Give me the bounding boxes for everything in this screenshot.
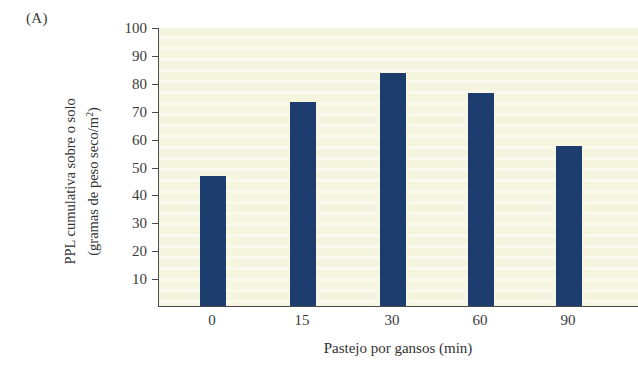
y-axis-tick-label-70: 70 [132,104,147,121]
bar-30 [380,73,406,306]
y-axis-tick-label-30: 30 [132,215,147,232]
y-axis-title-exponent: 2 [84,112,95,117]
y-axis-tick-90: 90 [152,56,159,57]
y-axis-tick-10: 10 [152,279,159,280]
y-axis-tick-50: 50 [152,168,159,169]
x-axis-tick-label-0: 0 [182,312,242,329]
y-axis-tick-20: 20 [152,251,159,252]
x-axis-title: Pastejo por gansos (min) [158,340,638,357]
x-axis-tick-label-60: 60 [450,312,510,329]
y-axis-tick-100: 100 [152,28,159,29]
y-axis-tick-label-10: 10 [132,271,147,288]
y-axis-title-line2-close: ) [85,107,101,112]
x-axis-tick-label-15: 15 [272,312,332,329]
y-axis-tick-label-50: 50 [132,160,147,177]
y-axis-tick-40: 40 [152,195,159,196]
plot-area: 102030405060708090100 [158,28,638,307]
bar-0 [200,176,226,306]
bar-60 [468,93,494,306]
y-axis-title-line2: (gramas de peso seco/m2) [80,36,104,326]
panel-label: (A) [26,10,48,27]
y-axis-title: PPL cumulativa sobre o solo (gramas de p… [61,36,104,326]
y-axis-tick-label-60: 60 [132,132,147,149]
x-axis-tick-label-30: 30 [362,312,422,329]
y-axis-tick-label-100: 100 [125,20,148,37]
y-axis-tick-70: 70 [152,112,159,113]
y-axis-tick-30: 30 [152,223,159,224]
y-axis-title-line2-text: (gramas de peso seco/m [85,117,101,256]
y-axis-tick-label-20: 20 [132,243,147,260]
x-axis-tick-label-90: 90 [538,312,598,329]
bar-15 [290,102,316,306]
y-axis-tick-label-40: 40 [132,187,147,204]
y-axis-title-line1: PPL cumulativa sobre o solo [62,98,78,264]
bar-90 [556,146,582,306]
y-axis-tick-80: 80 [152,84,159,85]
y-axis-tick-label-90: 90 [132,48,147,65]
y-axis-tick-label-80: 80 [132,76,147,93]
y-axis-tick-60: 60 [152,140,159,141]
